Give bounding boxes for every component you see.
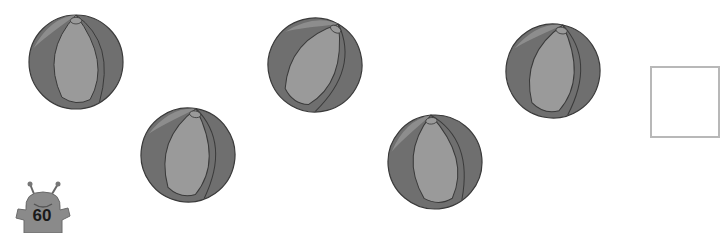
beach-ball-icon bbox=[139, 106, 237, 204]
answer-box[interactable] bbox=[650, 66, 720, 138]
beach-ball-icon bbox=[504, 22, 602, 120]
beach-ball-icon bbox=[266, 16, 364, 114]
beach-ball-icon bbox=[27, 13, 125, 111]
page-number: 60 bbox=[22, 206, 62, 226]
beach-ball-icon bbox=[386, 113, 484, 211]
